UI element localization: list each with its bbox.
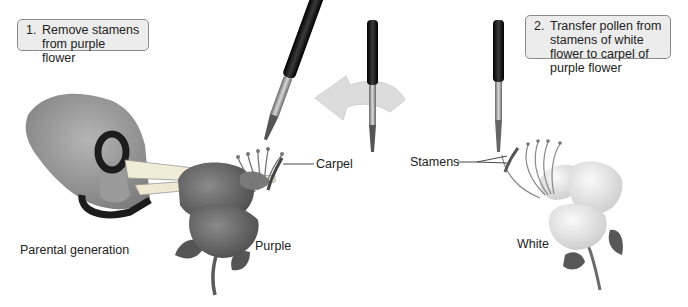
- step-1-callout: 1. Remove stamens from purple flower: [17, 19, 149, 51]
- purple-flower: [175, 147, 314, 295]
- curved-arrow-icon: [315, 76, 405, 120]
- purple-label: Purple: [255, 239, 291, 253]
- carpel-label: Carpel: [316, 157, 353, 171]
- step-1-number: 1.: [26, 23, 36, 37]
- parental-generation-label: Parental generation: [20, 243, 129, 257]
- step-2-callout: 2. Transfer pollen from stamens of white…: [525, 15, 671, 59]
- stamens-leader-lines: [458, 156, 507, 163]
- white-flower: [458, 139, 623, 290]
- step-2-number: 2.: [534, 19, 544, 33]
- stamens-label: Stamens: [410, 155, 459, 169]
- paintbrush-3: [493, 20, 504, 152]
- white-label: White: [517, 237, 549, 251]
- paintbrush-1: [259, 0, 325, 142]
